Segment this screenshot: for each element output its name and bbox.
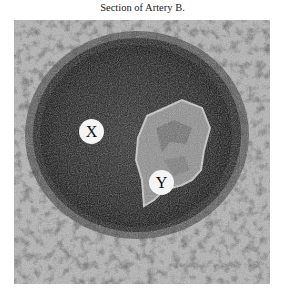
artery-section-image [14, 20, 270, 284]
label-x: X [79, 119, 104, 144]
artery-micrograph: X Y [14, 20, 270, 284]
figure-caption: Section of Artery B. [0, 2, 285, 13]
label-y: Y [149, 170, 174, 195]
